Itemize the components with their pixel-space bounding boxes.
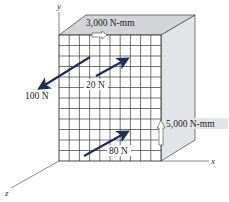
x-axis-label: x xyxy=(210,156,215,166)
force-label-80n: 80 N xyxy=(109,146,128,156)
moment-label-side: 5,000 N-mm xyxy=(166,119,215,129)
force-label-100n: 100 N xyxy=(25,91,49,101)
free-body-diagram: y x z 3,000 N-mm 5,000 N-mm 100 N 20 N 8… xyxy=(0,0,229,202)
z-axis-label: z xyxy=(4,188,9,198)
z-axis xyxy=(11,161,59,188)
y-axis-label: y xyxy=(56,1,61,11)
box-side-face xyxy=(161,15,195,161)
moment-label-top: 3,000 N-mm xyxy=(86,18,135,28)
force-label-20n: 20 N xyxy=(86,80,105,90)
